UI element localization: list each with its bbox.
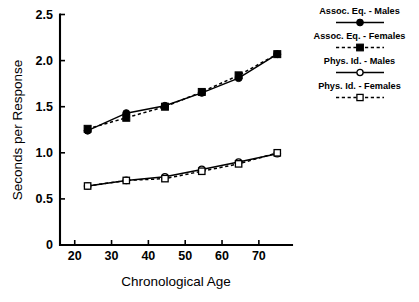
legend-label: Phys. Id. - Females — [300, 81, 419, 92]
data-point — [123, 114, 130, 121]
x-tick-label: 20 — [68, 249, 82, 263]
y-tick-label: 1.0 — [36, 146, 53, 160]
y-axis-title: Seconds per Response — [10, 60, 25, 200]
legend-entry-phys-id-males[interactable]: Phys. Id. - Males — [300, 56, 419, 78]
chart-legend: Assoc. Eq. - Males Assoc. Eq. - Females … — [300, 6, 419, 106]
data-point — [235, 161, 241, 167]
data-series — [84, 51, 281, 133]
legend-swatch-open-circle-solid — [300, 67, 419, 78]
x-tick-label: 60 — [215, 249, 229, 263]
data-point — [199, 168, 205, 174]
data-point — [162, 175, 168, 181]
x-axis-title: Chronological Age — [121, 274, 231, 289]
y-axis-tick-labels: 00.51.01.52.02.5 — [36, 8, 53, 253]
data-series-layer — [84, 51, 281, 190]
legend-swatch-filled-square-dashed — [300, 42, 419, 53]
legend-label: Assoc. Eq. - Females — [300, 31, 419, 42]
legend-label: Phys. Id. - Males — [300, 56, 419, 67]
x-tick-label: 30 — [105, 249, 119, 263]
legend-entry-assoc-eq-females[interactable]: Assoc. Eq. - Females — [300, 31, 419, 53]
legend-entry-assoc-eq-males[interactable]: Assoc. Eq. - Males — [300, 6, 419, 28]
legend-label: Assoc. Eq. - Males — [300, 6, 419, 17]
data-point — [161, 103, 168, 110]
series-line — [88, 54, 278, 131]
data-series — [84, 150, 280, 190]
data-series — [84, 151, 280, 190]
data-point — [84, 183, 90, 189]
y-tick-label: 0 — [46, 238, 53, 252]
y-tick-label: 2.5 — [36, 8, 53, 22]
data-point — [274, 150, 280, 156]
x-axis-tick-labels: 203040506070 — [68, 249, 266, 263]
y-tick-label: 2.0 — [36, 54, 53, 68]
y-tick-label: 0.5 — [36, 192, 53, 206]
data-series — [84, 51, 281, 135]
data-point — [198, 88, 205, 95]
chart-figure: 00.51.01.52.02.5 203040506070 Chronologi… — [0, 0, 419, 302]
axis-frame — [60, 15, 292, 246]
data-point — [274, 51, 281, 58]
x-tick-label: 50 — [178, 249, 192, 263]
data-point — [235, 72, 242, 79]
data-point — [84, 125, 91, 132]
legend-swatch-open-square-dashed — [300, 92, 419, 103]
series-line — [88, 154, 278, 186]
x-tick-label: 40 — [141, 249, 155, 263]
legend-swatch-filled-circle-solid — [300, 17, 419, 28]
legend-entry-phys-id-females[interactable]: Phys. Id. - Females — [300, 81, 419, 103]
y-tick-label: 1.5 — [36, 100, 53, 114]
series-line — [88, 153, 278, 186]
data-point — [123, 177, 129, 183]
x-tick-label: 70 — [252, 249, 266, 263]
